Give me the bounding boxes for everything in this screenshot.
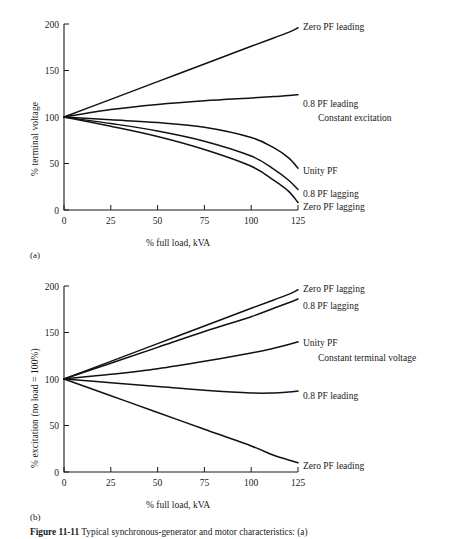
series-label-unity-pf-a: Unity PF [303,167,338,177]
x-ticklabel-25-b: 25 [106,478,116,488]
annotation-constant-excitation: Constant excitation [318,114,392,124]
x-ticklabel-100-b: 100 [244,478,259,488]
y-axis-label-b: % excitation (no load = 100%) [30,348,40,468]
x-ticklabel-125-a: 125 [291,216,306,226]
y-ticklabel-200-b: 200 [45,282,60,292]
y-ticklabel-0-a: 0 [54,206,59,216]
curve-0-8-pf-lagging [64,117,298,190]
curve-0-8-pf-leading [64,95,298,117]
chart-a-svg: 200 150 100 50 0 0 25 50 75 100 125 [0,4,467,262]
y-ticklabel-100-b: 100 [45,375,60,385]
curve-0-8-pf-lagging [64,299,298,379]
curve-unity-pf [64,342,298,379]
figure-caption: Figure 11-11 Typical synchronous-generat… [30,527,460,539]
panel-tag-a: (a) [30,250,40,260]
y-ticklabel-50-a: 50 [50,159,60,169]
y-ticklabel-50-b: 50 [50,421,60,431]
x-ticklabel-50-a: 50 [153,216,163,226]
series-label-08-pf-lagging-a: 0.8 PF lagging [303,190,359,200]
y-ticklabel-200-a: 200 [45,20,60,30]
caption-figure-number: Figure 11-11 [30,527,79,537]
series-label-08-pf-leading-a: 0.8 PF leading [303,100,358,110]
x-ticklabel-125-b: 125 [291,478,306,488]
series-label-zero-pf-leading-a: Zero PF leading [303,23,364,33]
curve-zero-pf-leading [64,28,298,117]
series-label-08-pf-lagging-b: 0.8 PF lagging [303,302,359,312]
y-axis-label-a: % terminal voltage [30,102,40,176]
y-ticklabel-150-b: 150 [45,328,60,338]
curve-zero-pf-lagging [64,117,298,203]
x-ticklabel-100-a: 100 [244,216,259,226]
tick-labels-b: 200 150 100 50 0 0 25 50 75 100 125 [45,282,306,489]
x-ticklabel-75-b: 75 [200,478,210,488]
series-label-08-pf-leading-b: 0.8 PF leading [303,392,358,402]
annotation-constant-terminal-voltage: Constant terminal voltage [318,354,416,364]
series-label-zero-pf-lagging-a: Zero PF lagging [303,203,365,213]
y-ticklabel-100-a: 100 [45,113,60,123]
panel-tag-b: (b) [30,512,41,522]
axis-lines-b [64,286,298,472]
chart-b-svg: 200 150 100 50 0 0 25 50 75 100 125 [0,266,467,524]
x-ticklabel-25-a: 25 [106,216,116,226]
curve-zero-pf-leading [64,379,298,463]
axes-b [64,286,298,472]
x-ticklabel-50-b: 50 [153,478,163,488]
x-ticklabel-0-a: 0 [62,216,67,226]
tick-labels-a: 200 150 100 50 0 0 25 50 75 100 125 [45,20,306,227]
x-axis-label-a: % full load, kVA [146,238,210,248]
series-label-zero-pf-leading-b: Zero PF leading [303,462,364,472]
chart-panel-a: 200 150 100 50 0 0 25 50 75 100 125 % te… [0,4,467,262]
series-label-unity-pf-b: Unity PF [303,339,338,349]
x-axis-label-b: % full load, kVA [146,500,210,510]
y-ticklabel-150-a: 150 [45,66,60,76]
axes-a [64,24,298,210]
axis-lines-a [64,24,298,210]
x-ticklabel-75-a: 75 [200,216,210,226]
caption-body: Typical synchronous-generator and motor … [81,527,307,537]
curves-b [64,290,298,463]
x-ticklabel-0-b: 0 [62,478,67,488]
y-ticklabel-0-b: 0 [54,468,59,478]
series-label-zero-pf-lagging-b: Zero PF lagging [303,285,365,295]
chart-panel-b: 200 150 100 50 0 0 25 50 75 100 125 % ex… [0,266,467,524]
curves-a [64,28,298,203]
